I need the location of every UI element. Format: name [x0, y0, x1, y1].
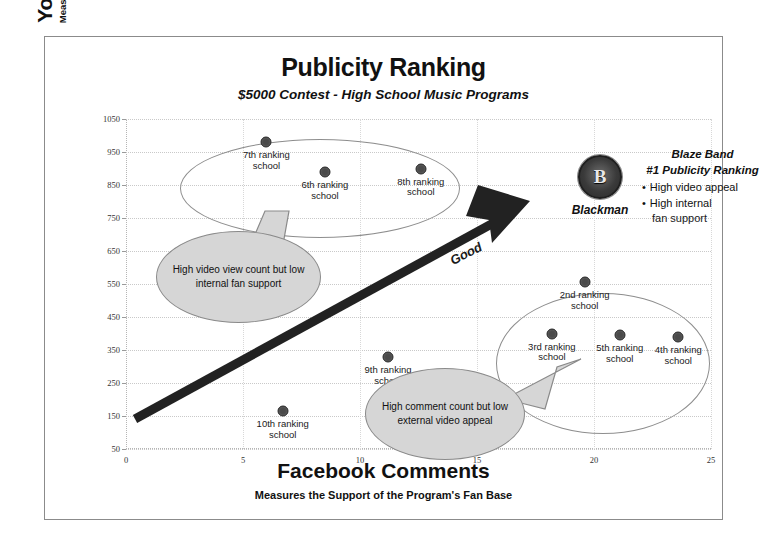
y-tick-mark	[122, 218, 126, 219]
y-tick-label: 950	[107, 147, 120, 157]
y-tick-mark	[122, 284, 126, 285]
data-point	[383, 351, 394, 362]
y-tick-mark	[122, 383, 126, 384]
data-point-label: 7th rankingschool	[243, 150, 290, 172]
y-tick-mark	[122, 251, 126, 252]
y-tick-label: 450	[107, 312, 120, 322]
data-point-label: 8th rankingschool	[397, 177, 444, 199]
y-tick-mark	[122, 317, 126, 318]
slide-canvas: Publicity Ranking $5000 Contest - High S…	[44, 36, 723, 520]
blackman-seal-logo-icon: B	[578, 155, 622, 199]
x-tick-label: 0	[124, 455, 128, 465]
logo-letter: B	[594, 166, 607, 188]
data-point-label-line2: school	[397, 187, 444, 198]
y-tick-label: 50	[112, 444, 121, 454]
y-tick-label: 850	[107, 180, 120, 190]
y-tick-label: 1050	[103, 114, 120, 124]
blaze-band-text: Blaze Band #1 Publicity Ranking •High vi…	[640, 147, 765, 225]
callout-low-video-appeal: High comment count but low external vide…	[365, 368, 525, 460]
data-point-label-line2: school	[243, 161, 290, 172]
page-title: Publicity Ranking	[45, 53, 722, 82]
x-tick-label: 5	[241, 455, 245, 465]
y-tick-mark	[122, 119, 126, 120]
blackman-name-label: Blackman	[565, 203, 635, 217]
x-tick-label: 25	[707, 455, 716, 465]
data-point	[319, 166, 330, 177]
data-point-label: 6th rankingschool	[301, 180, 348, 202]
y-axis-title: YouTube Views	[33, 0, 57, 97]
callout-low-fan-support: High video view count but low internal f…	[156, 231, 321, 323]
data-point	[415, 163, 426, 174]
data-point-label: 4th rankingschool	[655, 345, 702, 367]
y-tick-label: 250	[107, 378, 120, 388]
blaze-bullet-2: •High internal	[640, 196, 765, 210]
blaze-band-line1: Blaze Band	[640, 147, 765, 163]
y-tick-mark	[122, 416, 126, 417]
data-point-label-line2: school	[560, 301, 610, 312]
blaze-band-line2: #1 Publicity Ranking	[640, 163, 765, 179]
y-tick-label: 550	[107, 279, 120, 289]
y-tick-mark	[122, 449, 126, 450]
y-tick-label: 350	[107, 345, 120, 355]
data-point-label: 2nd rankingschool	[560, 290, 610, 312]
y-tick-mark	[122, 350, 126, 351]
data-point	[673, 331, 684, 342]
page-subtitle: $5000 Contest - High School Music Progra…	[45, 87, 722, 102]
x-tick-label: 20	[590, 455, 599, 465]
data-point-label-line2: school	[301, 191, 348, 202]
x-tick-label: 10	[356, 455, 365, 465]
x-axis-title: Facebook Comments	[45, 459, 722, 483]
bullet-dot-icon: •	[642, 197, 646, 209]
callout-1-text: High video view count but low internal f…	[167, 263, 310, 292]
data-point-label-line2: school	[655, 356, 702, 367]
bullet-dot-icon: •	[642, 181, 646, 193]
callout-2-text: High comment count but low external vide…	[376, 400, 514, 429]
data-point	[614, 330, 625, 341]
data-point	[579, 277, 590, 288]
y-tick-mark	[122, 185, 126, 186]
data-point	[277, 406, 288, 417]
data-point-label-line2: school	[257, 430, 309, 441]
blaze-bullet-1: •High video appeal	[640, 180, 765, 194]
gridline-horizontal	[126, 119, 711, 120]
y-tick-label: 650	[107, 246, 120, 256]
data-point-label-line2: school	[596, 354, 643, 365]
x-axis-subtitle: Measures the Support of the Program's Fa…	[45, 489, 722, 501]
y-axis-subtitle: Measures the Program's Appeal to Everyon…	[57, 0, 68, 57]
data-point	[261, 137, 272, 148]
blaze-bullet-2-cont: fan support	[640, 211, 765, 225]
data-point-label: 10th rankingschool	[257, 419, 309, 441]
data-point	[546, 328, 557, 339]
y-tick-mark	[122, 152, 126, 153]
y-tick-label: 150	[107, 411, 120, 421]
data-point-label: 5th rankingschool	[596, 343, 643, 365]
y-tick-label: 750	[107, 213, 120, 223]
